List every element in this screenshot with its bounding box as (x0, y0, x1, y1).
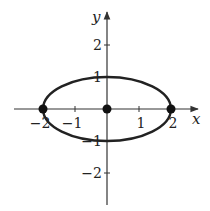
data-point (167, 105, 176, 114)
y-axis-label: y (91, 8, 101, 26)
y-tick-label: −2 (81, 165, 102, 181)
ellipse-plot: −2−11221−1−2 x y (0, 0, 210, 211)
y-tick-label: 2 (93, 37, 102, 53)
x-axis-label: x (192, 110, 201, 128)
x-tick-label: −2 (30, 115, 51, 131)
x-tick-label: 1 (137, 115, 146, 131)
x-tick-label: −1 (62, 115, 83, 131)
data-point (39, 105, 48, 114)
data-point (103, 105, 112, 114)
